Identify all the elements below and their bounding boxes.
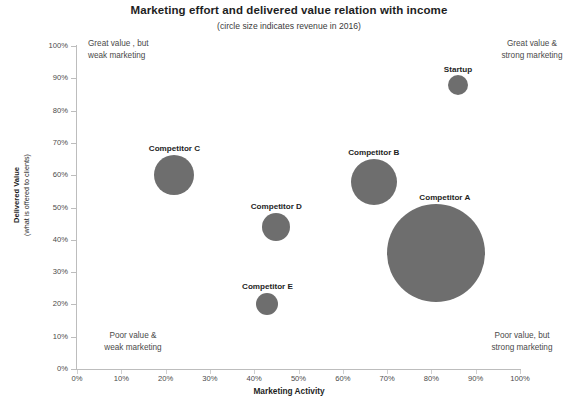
x-tick-label: 40%: [234, 374, 274, 383]
y-tick-mark: [71, 111, 76, 112]
chart-title: Marketing effort and delivered value rel…: [0, 4, 578, 16]
y-tick-label: 20%: [28, 299, 68, 308]
y-tick-mark: [71, 240, 76, 241]
annotation-top-right: Great value & strong marketing: [489, 38, 575, 61]
y-tick-mark: [71, 143, 76, 144]
x-tick-label: 10%: [101, 374, 141, 383]
y-axis-title: Delivered Value (what is offered to clie…: [12, 125, 32, 265]
y-axis-title-sub: (what is offered to clients): [22, 125, 32, 265]
bubble-label-startup: Startup: [444, 65, 472, 74]
y-tick-label: 70%: [28, 138, 68, 147]
bubble-competitor-c[interactable]: [154, 155, 194, 195]
bubble-competitor-a[interactable]: [387, 204, 485, 302]
y-tick-label: 10%: [28, 332, 68, 341]
y-tick-mark: [71, 175, 76, 176]
x-tick-label: 60%: [323, 374, 363, 383]
bubble-label-competitor-c: Competitor C: [149, 144, 200, 153]
x-axis-title: Marketing Activity: [0, 386, 578, 396]
bubble-startup[interactable]: [448, 75, 468, 95]
x-tick-label: 0%: [57, 374, 97, 383]
x-tick-label: 20%: [146, 374, 186, 383]
y-tick-label: 100%: [28, 41, 68, 50]
y-tick-mark: [71, 78, 76, 79]
y-axis-line: [76, 45, 77, 370]
y-tick-mark: [71, 337, 76, 338]
annotation-bottom-right: Poor value, but strong marketing: [473, 330, 571, 353]
y-tick-mark: [71, 369, 76, 370]
x-tick-label: 30%: [190, 374, 230, 383]
x-tick-label: 100%: [500, 374, 540, 383]
y-tick-mark: [71, 272, 76, 273]
bubble-competitor-d[interactable]: [262, 213, 290, 241]
y-axis-title-main: Delivered Value: [12, 125, 22, 265]
bubble-competitor-e[interactable]: [256, 293, 278, 315]
y-tick-mark: [71, 304, 76, 305]
chart-subtitle: (circle size indicates revenue in 2016): [0, 21, 578, 31]
annotation-top-left: Great value , but weak marketing: [88, 38, 149, 61]
bubble-label-competitor-d: Competitor D: [251, 202, 302, 211]
annotation-bottom-left: Poor value & weak marketing: [86, 330, 180, 353]
x-tick-label: 70%: [367, 374, 407, 383]
y-tick-label: 40%: [28, 235, 68, 244]
y-tick-mark: [71, 46, 76, 47]
bubble-label-competitor-b: Competitor B: [348, 148, 399, 157]
x-tick-label: 80%: [411, 374, 451, 383]
x-tick-label: 50%: [279, 374, 319, 383]
y-tick-label: 90%: [28, 73, 68, 82]
bubble-chart: Marketing effort and delivered value rel…: [0, 0, 578, 397]
y-tick-label: 50%: [28, 203, 68, 212]
y-tick-label: 80%: [28, 106, 68, 115]
y-tick-label: 30%: [28, 267, 68, 276]
y-tick-mark: [71, 208, 76, 209]
y-tick-label: 0%: [28, 364, 68, 373]
x-tick-label: 90%: [456, 374, 496, 383]
bubble-competitor-b[interactable]: [351, 159, 397, 205]
y-tick-label: 60%: [28, 170, 68, 179]
bubble-label-competitor-e: Competitor E: [242, 282, 293, 291]
bubble-label-competitor-a: Competitor A: [419, 193, 470, 202]
